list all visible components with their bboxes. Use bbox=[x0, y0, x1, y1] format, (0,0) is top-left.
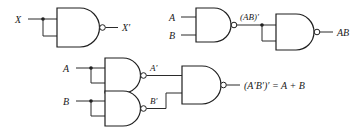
nand-gate-3a-bubble bbox=[141, 73, 147, 79]
logic-gate-figure: X X′ A B (AB)′ AB bbox=[0, 0, 364, 127]
label-input-x: X bbox=[14, 14, 22, 25]
label-input-b-2: B bbox=[169, 30, 175, 41]
nand-gate-2a-body bbox=[196, 8, 231, 42]
wire-a-bottom-branch-3 bbox=[91, 68, 105, 83]
label-b-not: B′ bbox=[150, 96, 158, 106]
nand-gate-3b-body bbox=[105, 91, 141, 126]
label-output-or: (A′B′)′ = A + B bbox=[244, 80, 305, 92]
nand-gate-3c-bubble bbox=[221, 82, 227, 88]
nand-gate-3a-body bbox=[105, 58, 141, 93]
nand-gate-2b-body bbox=[276, 14, 314, 50]
label-input-a-3: A bbox=[62, 63, 70, 74]
label-output-ab: AB bbox=[336, 27, 349, 38]
label-input-a-2: A bbox=[168, 12, 176, 23]
nand-gate-3c-body bbox=[182, 66, 221, 104]
label-input-b-3: B bbox=[63, 96, 69, 107]
nand-gate-3b-bubble bbox=[141, 106, 147, 112]
circuit-nand-and: A B (AB)′ AB bbox=[168, 8, 349, 50]
nand-gate-2b-bubble bbox=[314, 29, 320, 35]
nand-gate-2a-bubble bbox=[231, 22, 237, 28]
label-ab-not: (AB)′ bbox=[240, 12, 260, 22]
wire-ab-not-bottom-branch bbox=[262, 25, 276, 41]
wire-x-bottom-branch bbox=[43, 19, 57, 36]
nand-gate-1-body bbox=[57, 8, 100, 47]
label-output-x-not: X′ bbox=[121, 22, 131, 33]
nand-gate-1-bubble bbox=[100, 25, 106, 31]
label-a-not: A′ bbox=[149, 63, 158, 73]
wire-b-bottom-branch-3 bbox=[91, 101, 105, 116]
circuit-nand-or: A B A′ B′ (A′B′)′ = A + B bbox=[62, 58, 305, 126]
circuit-nand-inverter: X X′ bbox=[14, 8, 131, 47]
